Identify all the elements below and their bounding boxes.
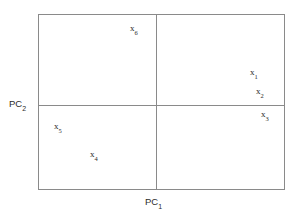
point-label-base: x: [130, 23, 135, 33]
data-point-label-x5: x5: [54, 122, 62, 133]
pca-score-plot-figure: x6 x1 x2 x3 x5 x4 PC2 PC1: [0, 0, 298, 217]
y-axis-title-base: PC: [9, 98, 22, 109]
plot-frame: [38, 14, 285, 190]
point-label-base: x: [90, 149, 95, 159]
point-label-subscript: 1: [255, 73, 258, 80]
y-axis-title-subscript: 2: [22, 105, 26, 112]
x-axis-title: PC1: [145, 197, 162, 209]
point-label-subscript: 5: [59, 127, 62, 134]
x-axis-title-subscript: 1: [158, 203, 162, 210]
horizontal-axis-line: [38, 105, 285, 106]
point-label-subscript: 4: [95, 155, 98, 162]
point-label-base: x: [250, 67, 255, 77]
x-axis-title-base: PC: [145, 196, 158, 207]
point-label-subscript: 2: [261, 92, 264, 99]
y-axis-title: PC2: [9, 99, 26, 111]
data-point-label-x1: x1: [250, 68, 258, 79]
data-point-label-x4: x4: [90, 150, 98, 161]
data-point-label-x6: x6: [130, 24, 138, 35]
point-label-subscript: 6: [135, 29, 138, 36]
point-label-subscript: 3: [266, 115, 269, 122]
vertical-axis-line: [156, 14, 157, 190]
point-label-base: x: [261, 109, 266, 119]
data-point-label-x2: x2: [256, 87, 264, 98]
point-label-base: x: [256, 86, 261, 96]
point-label-base: x: [54, 121, 59, 131]
data-point-label-x3: x3: [261, 110, 269, 121]
